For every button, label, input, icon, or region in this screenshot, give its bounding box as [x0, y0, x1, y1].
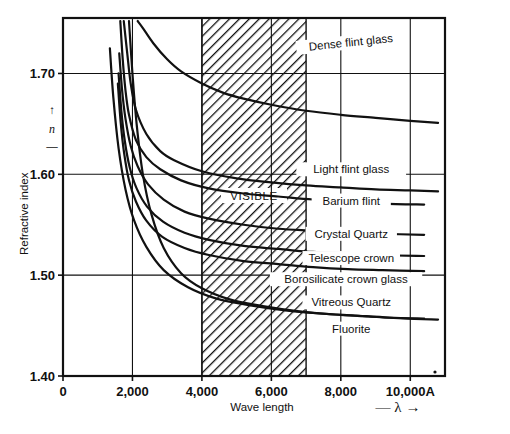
curve-label-telescope-crown: Telescope crown — [308, 252, 394, 264]
dash-icon: — — [46, 140, 58, 152]
curve-label-light-flint-glass: Light flint glass — [313, 163, 389, 175]
arrow-up-icon: ↑ — [49, 104, 55, 116]
x-tick-6000: 6,000 — [255, 384, 288, 399]
curve-label-barium-flint: Barium flint — [322, 195, 380, 207]
curve-label-borosilicate-crown-glass: Borosilicate crown glass — [284, 273, 408, 285]
angstrom-mark-icon — [433, 370, 436, 373]
y-axis-title: Refractive index — [18, 172, 30, 255]
x-tick-8000: 8,000 — [325, 384, 358, 399]
x-axis-tick-labels: 02,0004,0006,0008,00010,000A — [59, 384, 435, 399]
x-tick-2000: 2,000 — [116, 384, 149, 399]
curve-label-fluorite: Fluorite — [332, 323, 370, 335]
x-axis-title: Wave length — [230, 401, 294, 413]
y-tick-1.40: 1.40 — [30, 369, 55, 384]
x-tick-4000: 4,000 — [186, 384, 219, 399]
x-tick-10000: 10,000A — [386, 384, 436, 399]
y-tick-1.60: 1.60 — [30, 167, 55, 182]
curve-label-crystal-quartz: Crystal Quartz — [314, 228, 388, 240]
curve-label-vitreous-quartz: Vitreous Quartz — [311, 296, 391, 308]
y-axis-symbol-group: ↑ n — — [46, 104, 58, 152]
chart-svg: VISIBLE Dense flint glassLight flint gla… — [0, 0, 510, 434]
lambda-symbol: — λ → — [375, 399, 421, 415]
dispersion-chart-figure: VISIBLE Dense flint glassLight flint gla… — [0, 0, 510, 434]
x-tick-0: 0 — [59, 384, 66, 399]
y-tick-1.50: 1.50 — [30, 268, 55, 283]
refractive-index-symbol: n — [49, 122, 55, 136]
y-tick-1.70: 1.70 — [30, 66, 55, 81]
